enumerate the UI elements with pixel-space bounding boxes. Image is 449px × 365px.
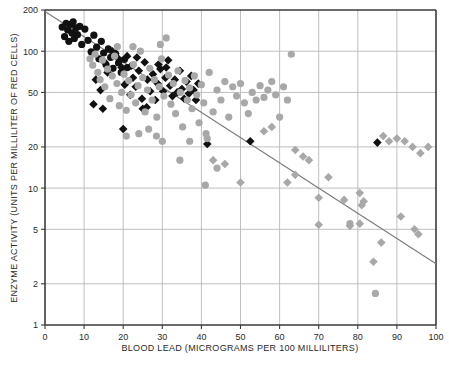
data-point-circle bbox=[101, 83, 108, 90]
x-tick-label: 40 bbox=[196, 332, 206, 342]
data-point-circle bbox=[120, 71, 127, 78]
data-point-circle bbox=[97, 76, 104, 83]
chart-container: 0102030405060708090100 125102050100200 B… bbox=[0, 0, 449, 365]
data-point-circle bbox=[256, 82, 263, 89]
data-point-circle bbox=[174, 67, 181, 74]
data-point-circle bbox=[145, 125, 152, 132]
data-point-circle bbox=[94, 69, 101, 76]
data-point-circle bbox=[130, 61, 137, 68]
data-point-circle bbox=[78, 41, 85, 48]
x-tick-label: 90 bbox=[392, 332, 402, 342]
data-point-circle bbox=[90, 32, 97, 39]
data-point-circle bbox=[186, 84, 193, 91]
data-point-circle bbox=[165, 71, 172, 78]
data-point-circle bbox=[188, 105, 195, 112]
data-point-circle bbox=[125, 77, 132, 84]
data-point-circle bbox=[129, 43, 136, 50]
data-point-circle bbox=[167, 101, 174, 108]
data-point-circle bbox=[116, 102, 123, 109]
x-tick-label: 100 bbox=[428, 332, 443, 342]
data-point-circle bbox=[195, 119, 202, 126]
x-tick-label: 70 bbox=[314, 332, 324, 342]
x-tick-label: 0 bbox=[42, 332, 47, 342]
data-point-circle bbox=[200, 99, 207, 106]
data-point-circle bbox=[221, 78, 228, 85]
data-point-circle bbox=[170, 80, 177, 87]
y-axis-title: ENZYME ACTIVITY (UNITS PER MILLILITER OF… bbox=[9, 33, 19, 303]
data-point-circle bbox=[84, 37, 91, 44]
chart-background bbox=[0, 0, 449, 365]
data-point-circle bbox=[372, 290, 379, 297]
data-point-circle bbox=[93, 44, 100, 51]
data-point-circle bbox=[276, 114, 283, 121]
data-point-circle bbox=[179, 123, 186, 130]
data-point-circle bbox=[132, 99, 139, 106]
data-point-circle bbox=[127, 91, 134, 98]
data-point-circle bbox=[144, 86, 151, 93]
data-point-circle bbox=[114, 43, 121, 50]
data-point-circle bbox=[204, 135, 211, 142]
data-point-circle bbox=[233, 92, 240, 99]
data-point-circle bbox=[237, 80, 244, 87]
x-tick-label: 50 bbox=[235, 332, 245, 342]
x-tick-label: 10 bbox=[79, 332, 89, 342]
data-point-circle bbox=[99, 57, 106, 64]
x-tick-label: 80 bbox=[353, 332, 363, 342]
data-point-circle bbox=[249, 89, 256, 96]
data-point-circle bbox=[260, 94, 267, 101]
y-tick-label: 5 bbox=[33, 225, 38, 235]
y-tick-label: 200 bbox=[23, 5, 38, 15]
data-point-circle bbox=[109, 72, 116, 79]
data-point-circle bbox=[91, 51, 98, 58]
data-point-circle bbox=[135, 130, 142, 137]
data-point-circle bbox=[268, 78, 275, 85]
data-point-circle bbox=[210, 108, 217, 115]
data-point-circle bbox=[157, 41, 164, 48]
data-point-circle bbox=[111, 53, 118, 60]
data-point-circle bbox=[98, 38, 105, 45]
y-tick-label: 100 bbox=[23, 47, 38, 57]
data-point-circle bbox=[118, 89, 125, 96]
data-point-circle bbox=[217, 96, 224, 103]
data-point-circle bbox=[181, 77, 188, 84]
data-point-circle bbox=[106, 95, 113, 102]
data-point-circle bbox=[264, 86, 271, 93]
data-point-circle bbox=[241, 99, 248, 106]
data-point-circle bbox=[288, 51, 295, 58]
data-point-circle bbox=[176, 157, 183, 164]
data-point-circle bbox=[139, 74, 146, 81]
data-point-circle bbox=[146, 65, 153, 72]
data-point-circle bbox=[151, 76, 158, 83]
scatter-plot-svg: 0102030405060708090100 125102050100200 B… bbox=[0, 0, 449, 365]
data-point-circle bbox=[153, 114, 160, 121]
data-point-circle bbox=[245, 110, 252, 117]
data-point-circle bbox=[198, 81, 205, 88]
data-point-circle bbox=[229, 83, 236, 90]
data-point-circle bbox=[213, 165, 220, 172]
data-point-circle bbox=[141, 108, 148, 115]
data-point-circle bbox=[134, 82, 141, 89]
data-point-circle bbox=[158, 55, 165, 62]
y-tick-label: 10 bbox=[28, 184, 38, 194]
data-point-circle bbox=[163, 34, 170, 41]
data-point-circle bbox=[272, 91, 279, 98]
data-point-circle bbox=[202, 182, 209, 189]
data-point-circle bbox=[225, 114, 232, 121]
data-point-circle bbox=[160, 92, 167, 99]
data-point-circle bbox=[193, 91, 200, 98]
x-axis-title: BLOOD LEAD (MICROGRAMS PER 100 MILLILITE… bbox=[122, 343, 359, 353]
data-point-circle bbox=[81, 26, 88, 33]
data-point-circle bbox=[159, 138, 166, 145]
data-point-circle bbox=[123, 132, 130, 139]
data-point-circle bbox=[149, 96, 156, 103]
data-point-circle bbox=[206, 69, 213, 76]
y-tick-label: 1 bbox=[33, 320, 38, 330]
data-point-circle bbox=[74, 31, 81, 38]
data-point-circle bbox=[156, 83, 163, 90]
x-tick-label: 30 bbox=[157, 332, 167, 342]
data-point-circle bbox=[253, 96, 260, 103]
data-point-circle bbox=[191, 72, 198, 79]
data-point-circle bbox=[177, 89, 184, 96]
data-point-circle bbox=[213, 86, 220, 93]
x-tick-label: 60 bbox=[275, 332, 285, 342]
